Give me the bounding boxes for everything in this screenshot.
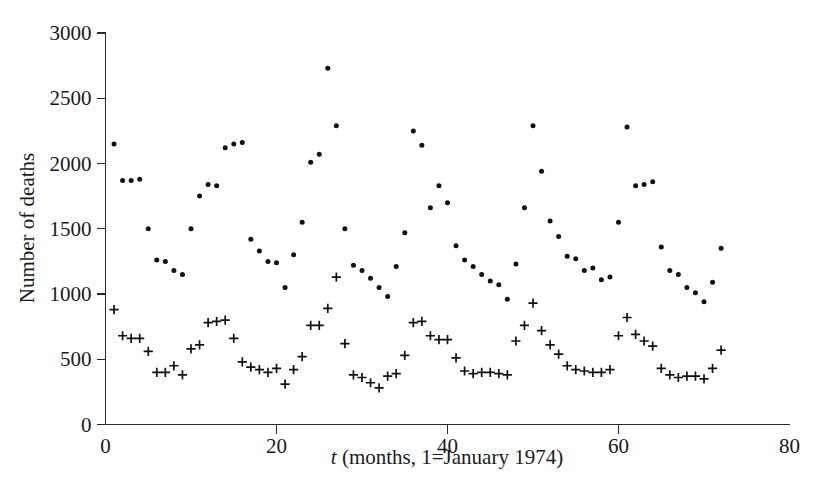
data-point-plus: [674, 373, 683, 382]
data-point-plus: [357, 373, 366, 382]
y-tick-label-3000: 3000: [50, 21, 92, 45]
x-tick-label-60: 60: [608, 434, 629, 458]
data-point-dot: [265, 259, 270, 264]
data-point-plus: [238, 357, 247, 366]
data-point-dot: [496, 282, 501, 287]
plot-canvas: 050010001500200025003000 020406080 t (mo…: [0, 0, 829, 502]
data-point-dot: [308, 160, 313, 165]
data-point-plus: [477, 368, 486, 377]
data-point-plus: [571, 365, 580, 374]
data-point-dot: [710, 280, 715, 285]
data-point-plus: [657, 364, 666, 373]
data-point-plus: [298, 352, 307, 361]
data-point-dot: [283, 285, 288, 290]
data-point-dot: [351, 263, 356, 268]
data-point-dot: [684, 285, 689, 290]
data-point-dot: [702, 299, 707, 304]
data-point-dot: [129, 178, 134, 183]
data-point-plus: [152, 368, 161, 377]
data-point-plus: [195, 340, 204, 349]
data-point-plus: [263, 368, 272, 377]
data-point-dot: [539, 169, 544, 174]
data-point-plus: [109, 305, 118, 314]
data-point-dot: [360, 268, 365, 273]
data-point-dot: [445, 200, 450, 205]
data-point-dot: [300, 220, 305, 225]
series-drivers-killed-points: [112, 66, 724, 305]
data-point-plus: [383, 372, 392, 381]
data-point-dot: [488, 278, 493, 283]
x-axis-title: t (months, 1=January 1974): [331, 445, 563, 469]
data-point-dot: [616, 220, 621, 225]
data-point-dot: [342, 226, 347, 231]
data-point-dot: [582, 268, 587, 273]
data-point-plus: [648, 342, 657, 351]
data-point-plus: [212, 317, 221, 326]
data-point-dot: [377, 285, 382, 290]
data-point-dot: [248, 237, 253, 242]
data-point-plus: [486, 368, 495, 377]
data-point-dot: [137, 177, 142, 182]
data-point-plus: [563, 361, 572, 370]
data-point-plus: [349, 370, 358, 379]
data-point-plus: [375, 383, 384, 392]
x-axis-title-rest: (months, 1=January 1974): [337, 445, 563, 469]
data-point-dot: [171, 268, 176, 273]
data-point-dot: [419, 143, 424, 148]
data-point-dot: [556, 234, 561, 239]
data-point-dot: [206, 182, 211, 187]
y-tick-label-1500: 1500: [50, 217, 92, 241]
data-point-plus: [400, 351, 409, 360]
data-point-dot: [471, 264, 476, 269]
data-point-dot: [325, 66, 330, 71]
data-point-dot: [719, 246, 724, 251]
data-point-plus: [144, 347, 153, 356]
data-point-dot: [667, 268, 672, 273]
data-point-plus: [708, 364, 717, 373]
data-point-dot: [189, 226, 194, 231]
data-point-plus: [665, 370, 674, 379]
data-point-plus: [682, 372, 691, 381]
data-point-plus: [494, 369, 503, 378]
data-point-dot: [590, 265, 595, 270]
data-point-plus: [451, 353, 460, 362]
data-point-plus: [306, 321, 315, 330]
data-point-plus: [580, 366, 589, 375]
data-point-plus: [588, 368, 597, 377]
data-point-plus: [699, 374, 708, 383]
x-axis-ticks: [277, 425, 619, 434]
data-point-plus: [118, 331, 127, 340]
data-point-dot: [573, 256, 578, 261]
data-point-dot: [163, 259, 168, 264]
data-point-plus: [631, 330, 640, 339]
data-point-plus: [469, 369, 478, 378]
data-point-plus: [229, 334, 238, 343]
data-point-dot: [334, 123, 339, 128]
data-point-dot: [607, 275, 612, 280]
data-point-plus: [289, 365, 298, 374]
data-point-plus: [528, 299, 537, 308]
y-axis-tick-labels: 050010001500200025003000: [50, 21, 92, 437]
data-point-dot: [112, 141, 117, 146]
data-point-dot: [411, 128, 416, 133]
data-point-plus: [186, 344, 195, 353]
data-point-dot: [274, 260, 279, 265]
data-point-dot: [642, 182, 647, 187]
data-point-plus: [392, 369, 401, 378]
data-point-plus: [434, 335, 443, 344]
data-point-dot: [462, 258, 467, 263]
data-point-plus: [280, 379, 289, 388]
data-point-plus: [315, 321, 324, 330]
y-axis-title: Number of deaths: [15, 153, 39, 303]
y-axis-ticks: [97, 33, 106, 425]
data-point-plus: [511, 336, 520, 345]
data-point-plus: [323, 304, 332, 313]
data-point-plus: [717, 346, 726, 355]
data-point-dot: [368, 276, 373, 281]
series-front-seat-passengers-killed-points: [109, 272, 725, 392]
data-point-plus: [246, 362, 255, 371]
data-point-plus: [332, 272, 341, 281]
data-point-dot: [291, 252, 296, 257]
scatter-plot-figure: 050010001500200025003000 020406080 t (mo…: [0, 0, 829, 502]
data-point-plus: [272, 364, 281, 373]
